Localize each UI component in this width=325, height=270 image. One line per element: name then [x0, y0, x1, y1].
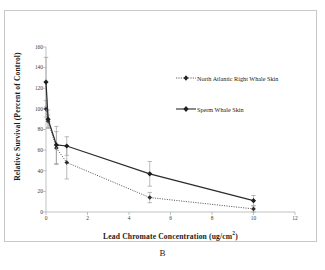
legend-label: Sperm Whale Skin: [197, 106, 244, 113]
data-point-marker: [251, 198, 256, 203]
x-tick-label: 12: [287, 215, 303, 221]
data-point-marker: [43, 79, 48, 84]
figure-caption: B: [0, 248, 325, 258]
legend-item-sperm-whale-skin[interactable]: Sperm Whale Skin: [176, 103, 316, 115]
x-axis-title-tail: ): [235, 232, 238, 241]
series-north-atlantic-right-whale-skin: [44, 101, 256, 212]
y-axis-title: Relative Survival (Percent of Control): [13, 32, 22, 202]
legend-marker-solid-icon: [176, 105, 196, 113]
y-axis-tick-labels: 020406080100120140160: [28, 47, 43, 212]
data-point-marker: [54, 142, 59, 147]
y-tick-label: 160: [29, 44, 43, 50]
x-tick-label: 6: [163, 215, 179, 221]
y-axis-ticks: [43, 47, 46, 212]
x-tick-label: 8: [204, 215, 220, 221]
legend-item-north-atlantic-right-whale-skin[interactable]: North Atlantic Right Whale Skin: [176, 72, 316, 84]
x-tick-label: 2: [80, 215, 96, 221]
figure-page: 020406080100120140160 024681012 Relative…: [0, 0, 325, 270]
data-point-marker: [147, 195, 152, 200]
x-axis-title-base: Lead Chromate Concentration (ug/cm: [103, 232, 232, 241]
y-tick-label: 60: [29, 147, 43, 153]
data-point-marker: [64, 143, 69, 148]
legend-marker-dotted-icon: [176, 74, 196, 82]
y-tick-label: 40: [29, 168, 43, 174]
y-tick-label: 140: [29, 64, 43, 70]
y-tick-label: 100: [29, 106, 43, 112]
y-tick-label: 120: [29, 85, 43, 91]
y-tick-label: 80: [29, 126, 43, 132]
legend-label: North Atlantic Right Whale Skin: [197, 75, 278, 82]
chart-legend: North Atlantic Right Whale Skin Sperm Wh…: [176, 72, 316, 115]
x-tick-label: 10: [246, 215, 262, 221]
y-tick-label: 20: [29, 188, 43, 194]
data-point-marker: [251, 207, 256, 212]
x-axis-tick-labels: 024681012: [46, 215, 295, 225]
x-tick-label: 0: [38, 215, 54, 221]
x-tick-label: 4: [121, 215, 137, 221]
x-axis-title: Lead Chromate Concentration (ug/cm2): [46, 230, 295, 241]
y-tick-label: 0: [29, 209, 43, 215]
data-point-marker: [147, 171, 152, 176]
